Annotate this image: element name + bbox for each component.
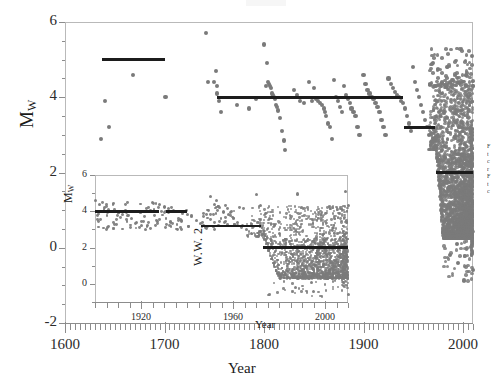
inset-data-point [330, 218, 332, 220]
data-point [464, 73, 468, 77]
inset-data-point [316, 256, 318, 258]
x-tick-major [463, 322, 464, 333]
inset-data-point [242, 207, 245, 210]
inset-x-tick-minor [222, 303, 223, 308]
inset-data-point [139, 203, 142, 206]
data-point [357, 133, 361, 137]
x-tick-label: 1700 [138, 336, 192, 353]
inset-data-point [294, 286, 297, 289]
main-x-axis-title: Year [228, 360, 256, 377]
data-point [442, 244, 445, 247]
x-tick-minor [204, 324, 205, 330]
inset-data-point [279, 234, 281, 236]
inset-data-point [283, 280, 285, 282]
inset-data-point [256, 236, 258, 238]
x-tick-minor [244, 324, 245, 330]
data-point [444, 110, 447, 113]
x-tick-minor [155, 324, 156, 330]
y-tick-minor [62, 116, 65, 117]
data-point [336, 99, 340, 103]
inset-data-point [290, 240, 292, 242]
data-point [269, 86, 273, 90]
data-point [163, 95, 167, 99]
inset-data-point [264, 216, 266, 218]
inset-x-tick-label: 2000 [308, 311, 342, 322]
inset-data-point [312, 257, 314, 259]
data-point [453, 267, 456, 270]
inset-data-point [280, 223, 282, 225]
data-point [446, 88, 449, 91]
inset-x-tick-minor [176, 303, 177, 308]
data-point [470, 186, 473, 189]
inset-data-point [346, 207, 348, 209]
inset-data-point [332, 212, 334, 214]
inset-data-point [347, 293, 350, 296]
x-tick-minor [304, 324, 305, 330]
x-tick-minor [160, 324, 161, 330]
inset-data-point [270, 238, 272, 240]
inset-x-tick-label: 1960 [216, 311, 250, 322]
inset-data-point [291, 282, 293, 284]
data-point [282, 138, 286, 142]
caption-line: r [487, 166, 501, 174]
y-tick-label: 2 [29, 163, 57, 180]
data-point [455, 248, 458, 251]
data-point [443, 106, 446, 109]
inset-data-point [115, 218, 118, 221]
data-point [456, 118, 459, 121]
x-tick-minor [418, 324, 419, 330]
x-tick-minor [324, 324, 325, 330]
inset-data-point [331, 264, 333, 266]
data-point [450, 93, 453, 96]
inset-data-point [278, 228, 280, 230]
inset-data-point [190, 214, 193, 217]
inset-y-tick-minor [92, 266, 95, 267]
data-point [448, 232, 451, 235]
data-point [454, 165, 457, 168]
inset-data-point [202, 212, 205, 215]
x-tick-minor [239, 324, 240, 330]
inset-data-point [320, 266, 322, 268]
inset-data-point [336, 208, 338, 210]
inset-data-point [262, 222, 264, 224]
data-point [470, 97, 473, 100]
inset-x-tick-major [233, 301, 234, 309]
x-tick-minor [423, 324, 424, 330]
x-tick-minor [219, 324, 220, 330]
inset-data-point [343, 286, 345, 288]
inset-data-point [343, 211, 345, 213]
x-tick-minor [80, 324, 81, 330]
inset-data-point [310, 266, 312, 268]
inset-step-segment [166, 210, 187, 213]
inset-data-point [343, 214, 345, 216]
inset-y-tick-label: 6 [69, 168, 87, 179]
inset-data-point [216, 209, 219, 212]
data-point [361, 73, 365, 77]
inset-x-axis-title: Year [255, 318, 275, 330]
inset-data-point [347, 278, 349, 280]
caption-line: c [487, 158, 501, 166]
inset-data-point [321, 207, 323, 209]
caption-line: F [487, 143, 501, 151]
inset-data-point [317, 291, 319, 293]
x-tick-minor [130, 324, 131, 330]
inset-data-point [294, 222, 296, 224]
inset-data-point [336, 254, 338, 256]
data-point [283, 148, 287, 152]
x-tick-major [65, 322, 66, 333]
y-tick-major [59, 97, 65, 98]
inset-data-point [138, 226, 141, 229]
data-point [439, 134, 442, 137]
inset-data-point [286, 277, 288, 279]
inset-data-point [322, 215, 324, 217]
y-tick-minor [62, 285, 65, 286]
x-tick-minor [378, 324, 379, 330]
data-point [447, 187, 450, 190]
data-point [437, 176, 440, 179]
inset-y-axis-title: MW [61, 185, 76, 203]
inset-data-point [143, 215, 146, 218]
data-point [438, 185, 441, 188]
step-segment [102, 58, 165, 61]
inset-data-point [316, 249, 318, 251]
y-tick-major [59, 248, 65, 249]
